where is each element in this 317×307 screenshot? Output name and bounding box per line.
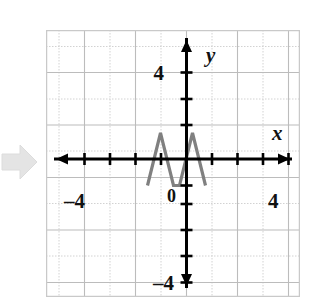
- x-axis-name-label: x: [271, 121, 283, 145]
- decorative-right-arrow-icon: [0, 140, 40, 184]
- x-axis-max-label: 4: [268, 189, 279, 213]
- origin-label: 0: [167, 186, 176, 206]
- x-axis-min-label: –4: [63, 189, 86, 213]
- coordinate-plane: 4 y x 0 –4 4 –4: [46, 30, 300, 297]
- coordinate-plane-svg: 4 y x 0 –4 4 –4: [46, 30, 300, 297]
- y-axis-max-label: 4: [154, 61, 165, 85]
- graph-figure: 4 y x 0 –4 4 –4: [0, 0, 317, 307]
- y-axis-min-label: –4: [152, 271, 175, 295]
